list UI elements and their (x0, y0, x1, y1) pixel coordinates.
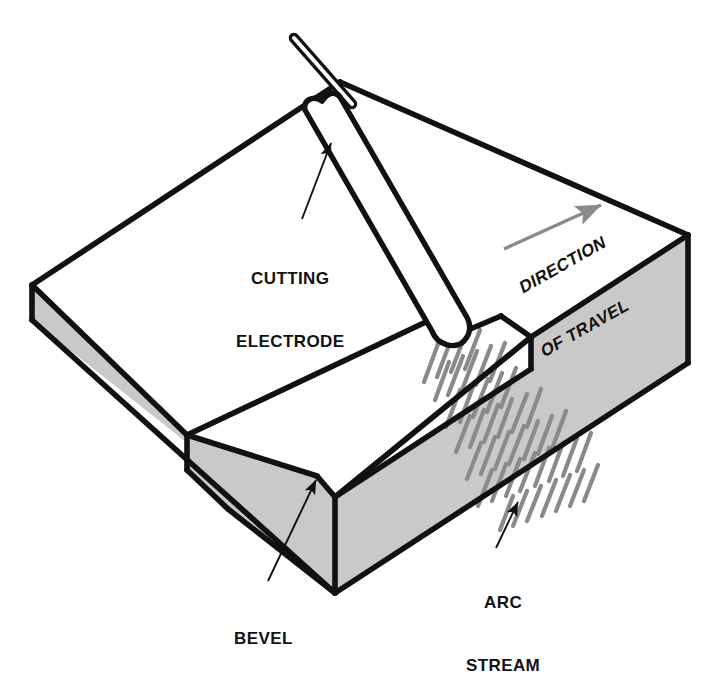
label-cutting-electrode-line2: ELECTRODE (236, 332, 344, 353)
label-direction-of-travel-line2: OF TRAVEL (539, 294, 632, 364)
label-bevel: BEVEL (234, 588, 293, 675)
label-direction-of-travel-line1: DIRECTION (517, 230, 610, 300)
label-bevel-line1: BEVEL (234, 629, 293, 650)
label-cutting-electrode-line1: CUTTING (236, 269, 344, 290)
label-arc-stream-line1: ARC (466, 593, 540, 614)
label-cutting-electrode: CUTTING ELECTRODE (236, 228, 344, 394)
label-arc-stream-line2: STREAM (466, 656, 540, 675)
label-arc-stream: ARC STREAM (466, 552, 540, 675)
